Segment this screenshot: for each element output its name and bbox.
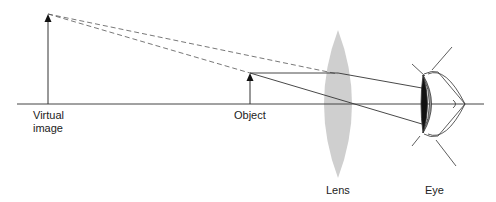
virtual-image-arrowhead	[45, 14, 52, 22]
optics-drawing	[0, 0, 496, 202]
virtual-image-label: Virtual image	[33, 109, 64, 135]
eye-drawing	[412, 47, 465, 166]
dashed-ray-lower	[48, 14, 250, 73]
virtual-image-label-line1: Virtual	[33, 109, 64, 122]
object-label: Object	[234, 109, 266, 122]
dashed-ray-upper	[48, 14, 338, 74]
magnifier-diagram: Virtual image Object Lens Eye	[0, 0, 496, 202]
lens-label: Lens	[326, 184, 350, 197]
virtual-image-label-line2: image	[33, 122, 64, 135]
object-arrowhead	[247, 73, 254, 81]
eye-label: Eye	[425, 184, 444, 197]
